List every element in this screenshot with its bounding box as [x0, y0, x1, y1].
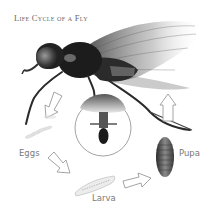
pupa-illustration: [156, 137, 174, 177]
arrow-adult-to-eggs: [45, 92, 62, 118]
diagram-artwork: [0, 0, 211, 211]
label-eggs: Eggs: [19, 148, 40, 158]
mouthpart-cap: [80, 94, 126, 113]
fly-thorax: [58, 42, 102, 78]
arrow-eggs-to-larva: [48, 152, 70, 173]
arrow-larva-to-pupa: [123, 173, 151, 188]
label-larva: Larva: [92, 193, 116, 203]
fly-life-cycle-diagram: Life Cycle of a Fly: [0, 0, 211, 211]
label-pupa: Pupa: [179, 148, 200, 158]
inset-closeup: [75, 94, 131, 156]
eggs-illustration: [25, 116, 56, 140]
fly-eye: [36, 47, 58, 69]
